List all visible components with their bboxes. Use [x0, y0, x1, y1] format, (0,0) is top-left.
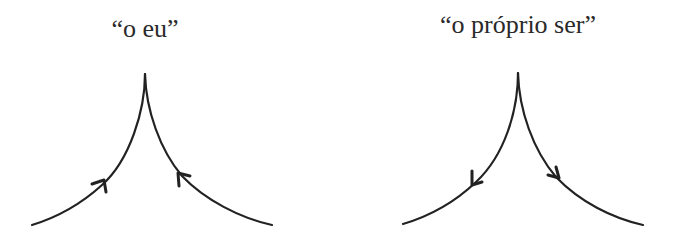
left-cusp-right-branch — [145, 74, 272, 225]
left-cusp-left-branch — [32, 74, 145, 225]
cusp-diagrams-drawing — [0, 0, 673, 248]
arrowhead-icon — [92, 180, 106, 192]
right-cusp-right-branch — [518, 73, 643, 225]
right-cusp-left-branch — [403, 73, 518, 224]
